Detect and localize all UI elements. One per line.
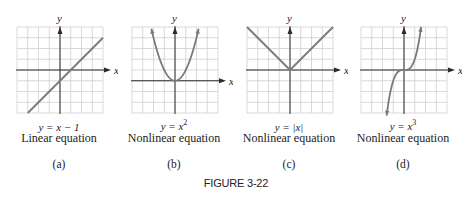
description-b: Nonlinear equation [115,131,233,146]
curve [28,38,103,113]
chart-d: xy [344,0,462,118]
y-arrow-icon [402,27,407,34]
equation-b: y = x2 [115,118,233,132]
x-arrow-icon [104,68,111,73]
panel-d: xy y = x3 Nonlinear equation (d) [344,0,462,175]
y-axis-label: y [171,12,177,24]
equation-prefix: y = [390,120,408,132]
y-axis-label: y [56,12,62,24]
y-arrow-icon [58,27,63,34]
x-axis-label: x [457,64,462,76]
description-d: Nonlinear equation [344,131,462,146]
panel-b: xy y = x2 Nonlinear equation (b) [115,0,233,175]
panel-letter-a: (a) [0,158,118,170]
figure-caption: FIGURE 3-22 [0,177,472,189]
y-arrow-icon [173,27,178,34]
description-a: Linear equation [0,131,118,146]
chart-b: xy [115,0,233,118]
panel-c: xy y = |x| Nonlinear equation (c) [230,0,348,175]
y-axis-label: y [400,12,406,24]
equation-d: y = x3 [344,118,462,132]
chart-a: xy [0,0,118,118]
chart-c: xy [230,0,348,118]
panel-letter-c: (c) [230,158,348,170]
axes [16,26,111,114]
equation-exponent: 2 [183,118,187,127]
panel-a: xy y = x − 1 Linear equation (a) [0,0,118,175]
x-arrow-icon [219,78,226,83]
equation-exponent: 3 [412,118,416,127]
y-arrow-icon [288,27,293,34]
panel-letter-b: (b) [115,158,233,170]
x-arrow-icon [334,68,341,73]
panel-letter-d: (d) [344,158,462,170]
description-c: Nonlinear equation [230,131,348,146]
equation-prefix: y = [161,120,179,132]
x-arrow-icon [448,68,455,73]
y-axis-label: y [286,12,292,24]
